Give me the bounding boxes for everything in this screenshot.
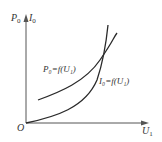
y-axis-label-i: I0 [28, 12, 36, 25]
i0-curve [26, 25, 108, 123]
chart-canvas: P0 I0 O U1 P₀=f(U₁) I₀=f(U₁) [0, 0, 162, 142]
origin-label: O [17, 122, 24, 133]
x-axis-label: U1 [142, 125, 153, 138]
y-axis-arrow-icon [24, 14, 29, 22]
i0-curve-label: I₀=f(U₁) [98, 76, 129, 86]
y-axis-label-p: P0 [10, 12, 21, 25]
p0-curve-label: P₀=f(U₁) [42, 64, 76, 74]
